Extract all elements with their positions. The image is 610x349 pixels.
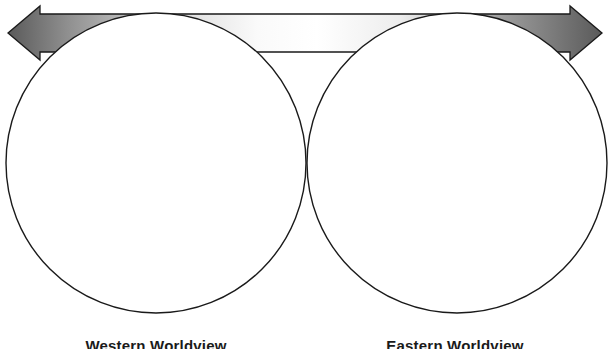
left-circle <box>6 13 306 313</box>
left-circle-caption: Western Worldview <box>0 337 312 349</box>
right-circle-caption: Eastern Worldview <box>300 337 610 349</box>
right-circle <box>307 13 607 313</box>
diagram-canvas: Western Worldview Eastern Worldview <box>0 0 610 349</box>
venn-diagram-graphic <box>0 0 610 349</box>
